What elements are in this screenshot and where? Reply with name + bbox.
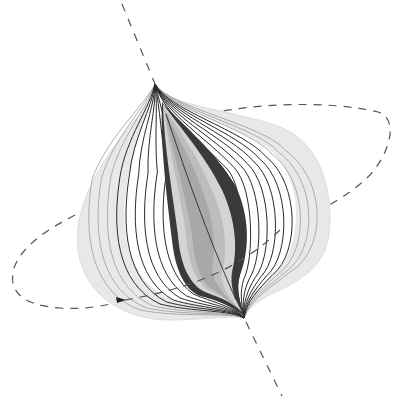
diagram-canvas [0, 0, 412, 402]
axis-lower-dashed [246, 322, 282, 396]
axis-upper-dashed [122, 4, 155, 84]
nested-surface-diagram [0, 0, 412, 402]
